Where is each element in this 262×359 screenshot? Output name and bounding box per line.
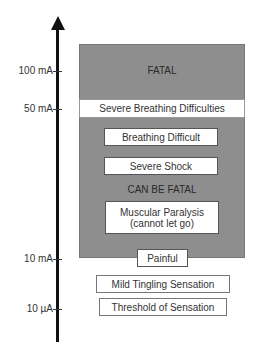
fatal-label: FATAL	[79, 65, 245, 76]
tick-100ma	[53, 71, 62, 72]
threshold-of-sensation-box: Threshold of Sensation	[99, 298, 227, 316]
tick-label-10ua: 10 µA	[27, 304, 53, 314]
muscular-paralysis-line1: Muscular Paralysis	[120, 207, 204, 218]
severe-breathing-difficulties-band: Severe Breathing Difficulties	[79, 99, 245, 118]
axis-line	[56, 28, 59, 342]
severe-shock-box: Severe Shock	[104, 157, 218, 175]
tick-50ma	[53, 109, 62, 110]
tick-label-50ma: 50 mA	[24, 104, 53, 114]
painful-box: Painful	[137, 249, 188, 267]
mild-tingling-box: Mild Tingling Sensation	[96, 275, 230, 293]
tick-10ua	[53, 309, 62, 310]
tick-10ma	[53, 259, 62, 260]
tick-label-100ma: 100 mA	[19, 66, 53, 76]
muscular-paralysis-line2: (cannot let go)	[130, 218, 194, 229]
breathing-difficult-box: Breathing Difficult	[104, 128, 218, 146]
muscular-paralysis-box: Muscular Paralysis (cannot let go)	[105, 201, 219, 234]
tick-label-10ma: 10 mA	[24, 254, 53, 264]
can-be-fatal-label: CAN BE FATAL	[79, 184, 245, 195]
